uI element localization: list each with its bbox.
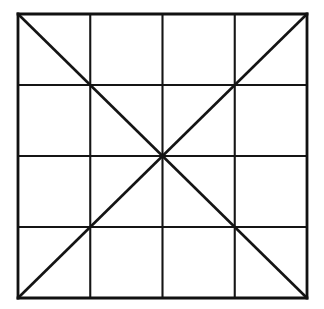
- geometric-figure: Square grid with two full diagonals A sq…: [0, 0, 324, 309]
